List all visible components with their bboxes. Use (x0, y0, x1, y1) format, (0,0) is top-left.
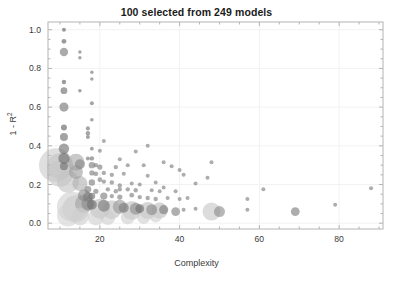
scatter-point (86, 156, 90, 160)
scatter-point (60, 162, 68, 170)
scatter-point (158, 189, 162, 193)
scatter-point (86, 126, 90, 130)
scatter-point (90, 147, 94, 151)
y-axis-label: 1 - R2 (6, 94, 18, 154)
scatter-point (117, 194, 122, 199)
scatter-point (333, 203, 337, 207)
scatter-point (100, 210, 115, 225)
scatter-point (159, 205, 168, 214)
scatter-point (261, 187, 265, 191)
scatter-point (62, 39, 67, 44)
scatter-point (135, 204, 144, 213)
scatter-point (130, 182, 134, 186)
scatter-point (166, 196, 170, 200)
scatter-point (182, 173, 186, 177)
scatter-point (78, 56, 81, 59)
scatter-point (75, 159, 85, 169)
scatter-point (134, 188, 138, 192)
scatter-point (118, 157, 122, 161)
scatter-point (291, 207, 300, 216)
plot-frame (48, 22, 383, 229)
scatter-point (60, 48, 68, 56)
scatter-point (138, 195, 142, 199)
x-tick-labels: 20406080 (95, 234, 344, 244)
scatter-point (114, 189, 118, 193)
scatter-point (245, 208, 249, 212)
scatter-point (110, 173, 114, 177)
x-tick-label: 80 (334, 234, 344, 244)
y-tick-label: 0.2 (29, 180, 41, 190)
scatter-point (87, 200, 97, 210)
scatter-point (93, 189, 98, 194)
scatter-point (102, 171, 106, 175)
scatter-point (62, 80, 66, 84)
scatter-point (110, 194, 114, 198)
scatter-point (97, 177, 102, 182)
scatter-point (86, 131, 90, 135)
scatter-point (78, 50, 81, 53)
scatter-point (245, 197, 249, 201)
scatter-point (86, 135, 90, 139)
scatter-point (119, 203, 129, 213)
scatter-point (369, 186, 373, 190)
scatter-point (90, 77, 93, 80)
x-tick-label: 60 (255, 234, 265, 244)
axes-frame (48, 22, 383, 229)
scatter-point (98, 200, 110, 212)
scatter-point (118, 183, 122, 187)
y-axis-label-exponent: 2 (6, 112, 13, 116)
scatter-point (194, 207, 198, 211)
scatter-point (98, 149, 102, 153)
scatter-point (194, 182, 198, 186)
y-tick-label: 0.0 (29, 218, 41, 228)
scatter-point (146, 144, 150, 148)
y-tick-label: 0.8 (29, 63, 41, 73)
scatter-point (153, 197, 157, 201)
scatter-point (178, 197, 182, 201)
scatter-point (61, 87, 68, 94)
scatter-point (90, 118, 94, 122)
scatter-point (84, 186, 91, 193)
scatter-point (146, 174, 150, 178)
scatter-point (61, 124, 67, 130)
scatter-point (114, 165, 118, 169)
scatter-point (100, 193, 107, 200)
scatter-point (126, 163, 130, 167)
scatter-point (93, 171, 98, 176)
scatter-point (138, 183, 142, 187)
scatter-point (118, 187, 122, 191)
scatter-point (89, 179, 95, 185)
y-tick-label: 1.0 (29, 25, 41, 35)
scatter-point (154, 181, 158, 185)
scatter-point (90, 101, 94, 105)
scatter-point (60, 133, 68, 141)
scatter-point (210, 160, 214, 164)
scatter-point (90, 156, 94, 160)
scatter-point (146, 196, 150, 200)
scatter-point (59, 103, 68, 112)
scatter-point (162, 185, 166, 189)
scatter-plot-figure: 100 selected from 249 models 20406080 0.… (0, 0, 393, 284)
scatter-point (174, 189, 178, 193)
grid-lines (48, 22, 383, 229)
scatter-point (214, 206, 225, 217)
x-tick-label: 20 (95, 234, 105, 244)
data-points (39, 28, 373, 227)
scatter-point (129, 193, 134, 198)
scatter-point (142, 163, 146, 167)
x-axis-label: Complexity (0, 258, 393, 268)
scatter-point (90, 71, 93, 74)
scatter-point (71, 207, 89, 225)
scatter-point (134, 150, 138, 154)
scatter-point (146, 204, 157, 215)
scatter-point (178, 168, 182, 172)
scatter-point (162, 160, 166, 164)
scatter-point (171, 207, 180, 216)
plot-canvas: 20406080 0.00.20.40.60.81.0 (0, 0, 393, 284)
scatter-point (126, 187, 130, 191)
scatter-point (102, 179, 106, 183)
scatter-point (170, 164, 174, 168)
scatter-point (102, 139, 106, 143)
scatter-point (182, 208, 186, 212)
scatter-point (122, 172, 126, 176)
